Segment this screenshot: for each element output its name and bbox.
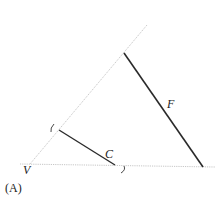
- base-ray: [20, 164, 215, 167]
- arc-mark-lower: [121, 166, 125, 173]
- segment-f: [124, 53, 203, 167]
- upper-ray: [30, 25, 147, 164]
- vertex-label: V: [23, 163, 30, 178]
- segment-c-label: C: [105, 147, 113, 162]
- diagram-canvas: [0, 0, 224, 203]
- panel-label: (A): [5, 181, 22, 196]
- arc-mark-upper: [51, 124, 54, 132]
- segment-f-label: F: [167, 97, 174, 112]
